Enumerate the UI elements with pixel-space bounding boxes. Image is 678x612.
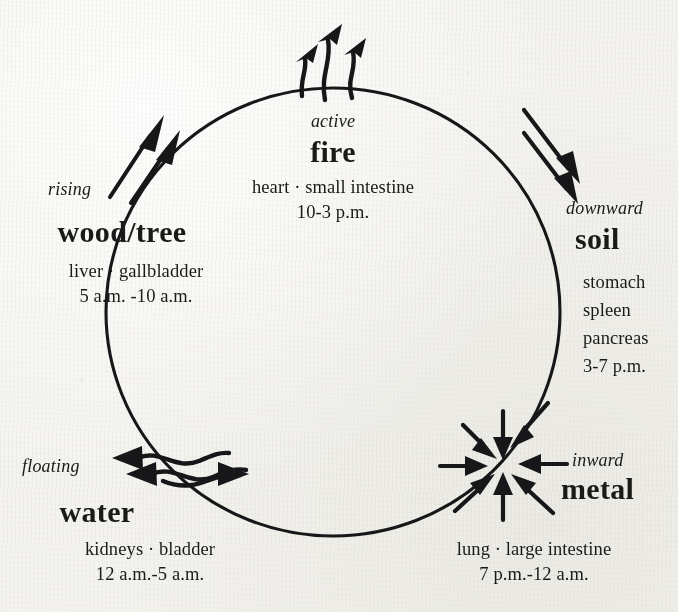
soil-organ-3-label: pancreas [583, 329, 649, 348]
soil-time-label: 3-7 p.m. [583, 357, 646, 376]
wood-quality-label: rising [48, 180, 91, 198]
two-rising-arrows-icon [110, 115, 180, 203]
fire-time-label: 10-3 p.m. [297, 203, 369, 222]
metal-element-label: metal [561, 474, 634, 504]
five-element-cycle-diagram: .ink { fill:none; stroke:#17171a; stroke… [0, 0, 678, 612]
wood-element-label: wood/tree [58, 217, 187, 247]
water-quality-label: floating [22, 457, 80, 475]
water-organs-label: kidneys · bladder [85, 540, 215, 559]
soil-organ-1-label: stomach [583, 273, 645, 292]
wood-organs-label: liver · gallbladder [69, 262, 203, 281]
fire-quality-label: active [311, 112, 355, 130]
water-element-label: water [60, 497, 135, 527]
fire-organs-label: heart · small intestine [252, 178, 414, 197]
soil-organ-2-label: spleen [583, 301, 631, 320]
metal-organs-label: lung · large intestine [457, 540, 611, 559]
two-downward-arrows-icon [524, 110, 580, 204]
metal-time-label: 7 p.m.-12 a.m. [479, 565, 588, 584]
fire-element-label: fire [310, 137, 356, 167]
metal-quality-label: inward [572, 451, 624, 469]
soil-element-label: soil [575, 224, 620, 254]
wood-time-label: 5 a.m. -10 a.m. [80, 287, 193, 306]
water-time-label: 12 a.m.-5 a.m. [96, 565, 204, 584]
soil-quality-label: downward [566, 199, 643, 217]
